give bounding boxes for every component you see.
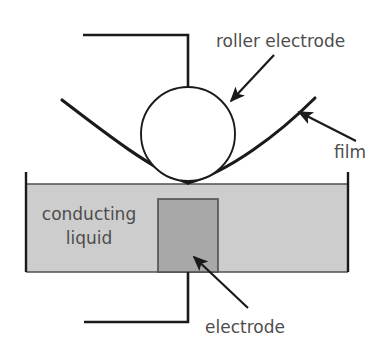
- label-conducting-liquid-line2: liquid: [66, 228, 113, 248]
- top-lead-wire: [83, 35, 188, 87]
- diagram-root: roller electrode film conducting liquid …: [0, 0, 383, 344]
- label-film: film: [334, 142, 366, 162]
- label-roller-electrode: roller electrode: [216, 31, 345, 51]
- roller-electrode-arrow: [231, 55, 274, 101]
- schematic-diagram: roller electrode film conducting liquid …: [0, 0, 383, 344]
- label-conducting-liquid-line1: conducting: [42, 204, 136, 224]
- label-electrode: electrode: [205, 317, 285, 337]
- roller-electrode-circle: [141, 87, 235, 181]
- submerged-electrode-block: [158, 199, 218, 272]
- bottom-lead-wire: [84, 272, 188, 322]
- film-arrow: [299, 112, 356, 141]
